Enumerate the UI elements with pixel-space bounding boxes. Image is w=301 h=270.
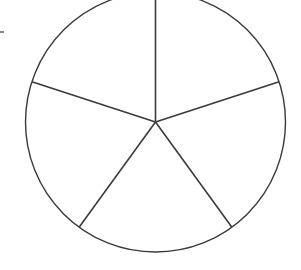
diagram-canvas: [0, 0, 301, 270]
sector-divider-line: [32, 82, 156, 122]
pentagonal-divided-circle: [0, 0, 301, 270]
sector-divider-line: [79, 122, 155, 227]
sector-divider-line: [156, 82, 280, 122]
sector-dividers: [32, 0, 279, 227]
sector-divider-line: [156, 122, 232, 227]
